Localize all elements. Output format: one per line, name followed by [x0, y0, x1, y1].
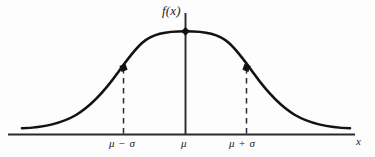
density-axis-label: f(x) — [162, 3, 181, 19]
tick-label-mu-plus-sigma: μ + σ — [229, 137, 255, 149]
x-axis-label: x — [356, 135, 361, 147]
normal-distribution-figure: f(x) μ − σ μ μ + σ x — [0, 0, 375, 157]
tick-label-mu: μ — [181, 137, 187, 149]
inflection-marker-right-icon — [242, 64, 250, 72]
distribution-plot — [0, 0, 375, 157]
peak-marker-icon — [181, 27, 190, 36]
tick-label-mu-minus-sigma: μ − σ — [109, 137, 135, 149]
